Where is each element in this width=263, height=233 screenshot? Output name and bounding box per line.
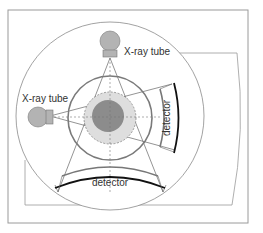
detector-bottom-label: detector bbox=[92, 177, 129, 188]
xray-tube-top-label: X-ray tube bbox=[124, 46, 171, 57]
xray-tube-top-icon bbox=[100, 31, 120, 57]
ct-scanner-diagram: detector detector X-ray tube X-ray tube bbox=[0, 0, 263, 233]
detector-right-label: detector bbox=[161, 99, 172, 136]
xray-tube-left-label: X-ray tube bbox=[22, 93, 69, 104]
patient-inner bbox=[92, 100, 124, 132]
xray-tube-left-icon bbox=[28, 107, 53, 127]
